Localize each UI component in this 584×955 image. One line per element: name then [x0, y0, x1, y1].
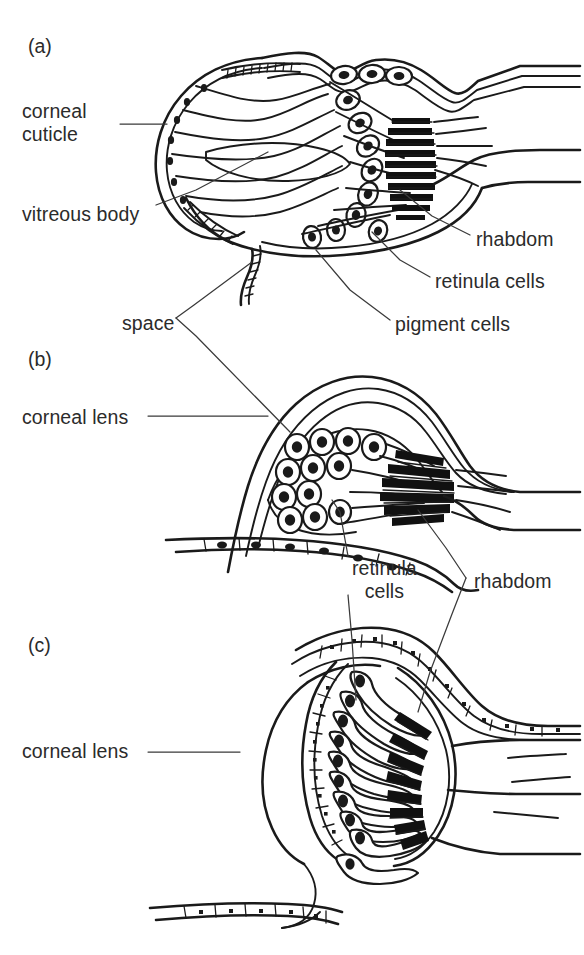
label-retinula-cells-a: retinula cells — [435, 270, 545, 293]
label-space: space — [122, 312, 175, 335]
leader-space-lower — [176, 318, 290, 432]
panel-a-label: (a) — [28, 35, 52, 58]
label-rhabdom-middle: rhabdom — [474, 570, 552, 593]
label-pigment-cells-a: pigment cells — [395, 313, 510, 336]
eye-anatomy-illustration: .o{fill:none;stroke:#1a1a1a;stroke-width… — [0, 0, 584, 955]
panel-c-label: (c) — [28, 634, 51, 657]
panel-a-artwork — [156, 53, 580, 305]
nerve-fibres-a — [434, 117, 492, 186]
cuticle-pigment-dots — [167, 84, 207, 204]
leader-pigment-cells-a — [316, 250, 390, 320]
retinula-cells-b — [272, 428, 386, 533]
vitreous-body-lines — [172, 84, 342, 217]
figure-canvas: .o{fill:none;stroke:#1a1a1a;stroke-width… — [0, 0, 584, 955]
label-corneal-cuticle: corneal cuticle — [22, 100, 87, 146]
retinula-cells-c-lower — [336, 854, 418, 884]
label-corneal-lens-c: corneal lens — [22, 740, 128, 763]
nerve-fibres-c — [494, 754, 570, 818]
label-corneal-lens-b: corneal lens — [22, 406, 128, 429]
label-retinula-cells-middle: retinula cells — [352, 557, 417, 603]
label-rhabdom-a: rhabdom — [476, 228, 554, 251]
label-vitreous-body: vitreous body — [22, 203, 139, 226]
leader-space-upper — [176, 262, 252, 318]
panel-c-artwork — [150, 628, 580, 928]
striated-cuticle-top — [222, 63, 300, 78]
rhabdom-fine-striations-a — [386, 122, 437, 199]
panel-b-label: (b) — [28, 348, 52, 371]
